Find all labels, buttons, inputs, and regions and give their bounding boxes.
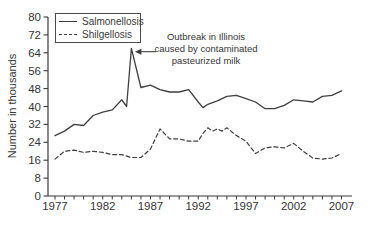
annotation-line-1: Outbreak in Illinois bbox=[150, 31, 262, 43]
annotation-line-2: caused by contaminated bbox=[150, 43, 262, 55]
legend-item-shigellosis: Shilgellosis bbox=[59, 28, 137, 41]
y-axis-tick-label: 8 bbox=[35, 172, 41, 184]
y-axis-tick-label: 0 bbox=[35, 190, 41, 202]
y-axis-title: Number in thousands bbox=[6, 51, 18, 161]
y-axis-tick-label: 32 bbox=[28, 118, 41, 130]
epidemiology-line-chart-figure: 0816243240485664728019771982198719921997… bbox=[0, 0, 372, 231]
x-axis-tick-label: 1997 bbox=[233, 200, 259, 212]
y-axis-tick-label: 72 bbox=[28, 29, 41, 41]
solid-line-swatch-icon bbox=[59, 21, 77, 22]
y-axis-tick-label: 24 bbox=[28, 136, 41, 148]
legend-label: Salmonellosis bbox=[82, 17, 144, 27]
annotation-arrowhead-icon bbox=[135, 49, 142, 55]
legend-item-salmonellosis: Salmonellosis bbox=[59, 15, 137, 28]
x-axis-tick-label: 2002 bbox=[281, 200, 307, 212]
y-axis-tick-label: 40 bbox=[28, 101, 41, 113]
y-axis-tick-label: 16 bbox=[28, 154, 41, 166]
y-axis-tick-label: 80 bbox=[28, 11, 41, 23]
annotation-line-3: pasteurized milk bbox=[150, 55, 262, 67]
legend-label: Shilgellosis bbox=[82, 30, 132, 40]
y-axis-tick-label: 64 bbox=[28, 47, 41, 59]
series-line-shilgellosis bbox=[55, 128, 342, 159]
y-axis-tick-label: 56 bbox=[28, 65, 41, 77]
x-axis-tick-label: 1977 bbox=[42, 200, 68, 212]
x-axis-tick-label: 1982 bbox=[90, 200, 116, 212]
x-axis-tick-label: 1992 bbox=[185, 200, 211, 212]
x-axis-tick-label: 2007 bbox=[329, 200, 355, 212]
outbreak-annotation: Outbreak in Illinois caused by contamina… bbox=[150, 31, 262, 67]
dashed-line-swatch-icon bbox=[59, 34, 77, 35]
y-axis-tick-label: 48 bbox=[28, 83, 41, 95]
x-axis-tick-label: 1987 bbox=[138, 200, 164, 212]
chart-legend: Salmonellosis Shilgellosis bbox=[55, 13, 141, 43]
